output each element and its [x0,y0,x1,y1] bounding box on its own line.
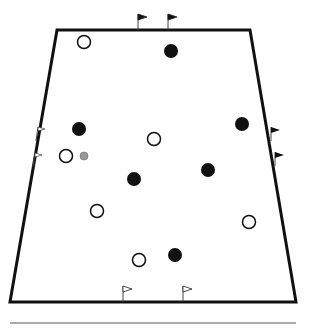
players-group [60,36,256,267]
filled-player-marker [72,122,86,136]
ball-icon [80,152,88,160]
open-player-marker [148,133,161,146]
filled-player-marker [201,163,215,177]
light-flag-icon [183,286,192,302]
dark-flag-icon [275,152,284,166]
filled-player-marker [168,248,182,262]
dark-flag-icon [168,14,177,30]
filled-player-marker [127,172,141,186]
light-flag-icon [123,286,132,302]
filled-player-marker [164,44,178,58]
dark-flag-icon [138,14,147,30]
open-player-marker [78,36,91,49]
filled-player-marker [235,117,249,131]
drill-diagram [0,0,311,330]
open-player-marker [91,205,104,218]
open-player-marker [60,150,73,163]
open-player-marker [133,254,146,267]
field-boundary [10,30,296,302]
open-player-marker [243,216,256,229]
dark-flag-icon [271,127,280,141]
